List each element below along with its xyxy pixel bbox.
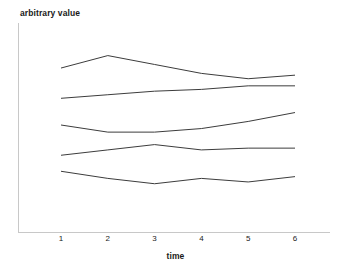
x-tick-label-2: 2 [98, 234, 118, 243]
x-axis-title: time [0, 251, 349, 261]
data-line-2 [61, 86, 295, 98]
x-tick-label-4: 4 [191, 234, 211, 243]
x-tick-label-1: 1 [51, 234, 71, 243]
data-line-5 [61, 171, 295, 183]
data-line-4 [61, 145, 295, 156]
series-layer [61, 56, 295, 184]
x-tick-label-6: 6 [285, 234, 305, 243]
x-tick-label-5: 5 [238, 234, 258, 243]
data-line-1 [61, 56, 295, 79]
data-line-3 [61, 113, 295, 133]
x-tick-label-3: 3 [145, 234, 165, 243]
plot-area [0, 0, 349, 271]
chart-container: arbitrary value 123456 time [0, 0, 349, 271]
